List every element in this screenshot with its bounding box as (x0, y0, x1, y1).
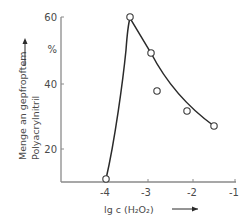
y-tick-label-60: 60 (44, 12, 57, 23)
data-point (103, 176, 109, 182)
y-unit-label: % (47, 44, 57, 55)
data-point (127, 14, 133, 20)
data-point (154, 88, 160, 94)
data-point (184, 108, 190, 114)
x-axis-arrow-icon (172, 207, 198, 212)
y-axis-title: Menge an gepfropftem Polyacrylnitril (17, 51, 41, 160)
y-tick-label-40: 40 (44, 79, 57, 90)
data-point (211, 123, 217, 129)
x-tick-label-neg4: -4 (100, 187, 110, 198)
x-tick-label-neg2: -2 (187, 187, 197, 198)
y-axis-title-line2: Polyacrylnitril (30, 96, 41, 160)
y-axis-title-line1: Menge an gepfropftem (17, 51, 28, 160)
fitted-curve (106, 18, 214, 179)
chart: 60 % 40 20 -4 -3 -2 -1 lg c (H₂O₂) Menge… (0, 0, 249, 224)
y-tick-label-20: 20 (44, 144, 57, 155)
x-axis-title: lg c (H₂O₂) (104, 204, 154, 215)
data-point (148, 50, 154, 56)
x-tick-label-neg3: -3 (141, 187, 151, 198)
x-tick-label-neg1: -1 (229, 187, 239, 198)
